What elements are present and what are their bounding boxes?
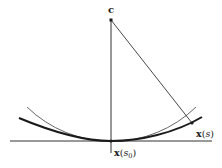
point-x-s [190, 121, 193, 124]
osculating-circle-diagram: c x(s0) x(s) [0, 0, 222, 168]
point-s0-label: x(s0) [114, 147, 136, 160]
center-label: c [108, 4, 114, 15]
center-point [110, 19, 113, 22]
point-x-s0 [109, 139, 112, 142]
point-s-label-close: ) [210, 128, 214, 139]
radius-segment [111, 20, 192, 123]
point-s0-label-close: ) [132, 147, 136, 158]
point-s-label: x(s) [196, 128, 214, 139]
